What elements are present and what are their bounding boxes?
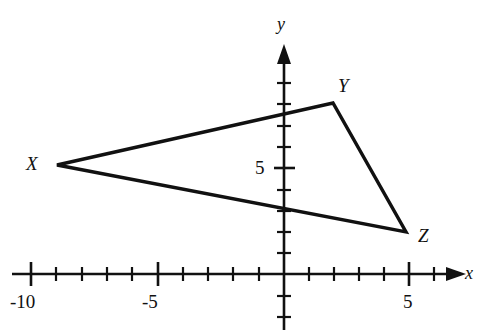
- vertex-label-x: X: [26, 154, 38, 173]
- x-tick-label-neg10: -10: [10, 292, 35, 311]
- vertex-label-y: Y: [338, 76, 349, 95]
- y-axis-group: [277, 44, 291, 330]
- triangle-xyz: [57, 103, 406, 232]
- x-tick-label-pos5: 5: [403, 292, 413, 311]
- vertex-label-z: Z: [418, 226, 429, 245]
- coordinate-plane-svg: [0, 0, 484, 336]
- x-axis-arrowhead: [446, 267, 466, 281]
- y-axis-label: y: [277, 15, 285, 33]
- x-axis-label: x: [465, 264, 473, 282]
- y-axis-arrowhead: [277, 44, 291, 64]
- y-tick-label-pos5: 5: [255, 158, 265, 177]
- figure-canvas: y x -10 -5 5 5 X Y Z: [0, 0, 484, 336]
- x-axis-group: [12, 267, 466, 281]
- x-tick-label-neg5: -5: [142, 292, 158, 311]
